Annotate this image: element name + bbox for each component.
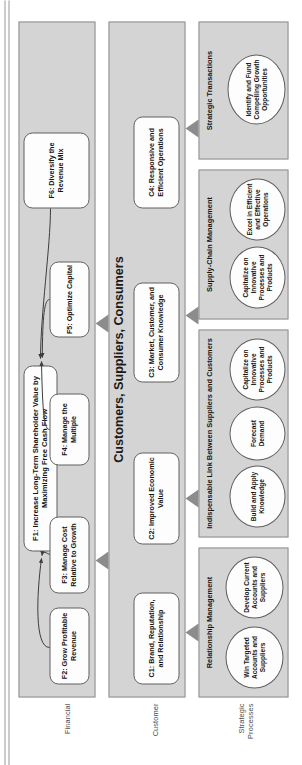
process-group-strategic-transactions: Strategic Transactions Identify and Fund…	[198, 21, 288, 159]
objective-f3[interactable]: F3: Manage Cost Relative to Growth	[49, 516, 89, 593]
flow-arrow-indispensable-link-to-customer	[185, 489, 198, 507]
objective-c1[interactable]: C1: Brand, Reputation, and Relationship	[133, 592, 179, 684]
row-label-customer: Customer	[150, 703, 159, 761]
process-group-indispensable-link: Indispensable Link Between Suppliers and…	[198, 329, 288, 537]
process-group-title: Supply-Chain Management	[204, 170, 213, 318]
process-item[interactable]: Build and Apply Knowledge	[229, 465, 285, 527]
process-group-title: Relationship Management	[204, 548, 213, 696]
process-item[interactable]: Capitalize on Innovative Processes and P…	[229, 246, 285, 308]
process-group-title: Strategic Transactions	[204, 22, 213, 158]
flow-arrow-customer-to-financial-left	[95, 551, 108, 569]
objective-c4[interactable]: C4: Responsive and Efficient Operations	[133, 116, 179, 208]
process-group-supply-chain-management: Supply-Chain Management Capitalize on In…	[198, 169, 288, 319]
band-title-customer: Customers, Suppliers, Consumers	[111, 21, 126, 697]
frame-line-outer	[4, 0, 5, 765]
process-item[interactable]: Capitalize on Innovative Processes and P…	[229, 338, 285, 400]
process-group-title: Indispensable Link Between Suppliers and…	[204, 330, 213, 536]
process-item[interactable]: Win Targeted Accounts and Suppliers	[225, 626, 283, 688]
objective-c3[interactable]: C3: Market, Customer, and Consumer Knowl…	[133, 282, 179, 382]
row-label-financial: Financial	[62, 703, 71, 761]
process-item[interactable]: Develop Current Accounts and Suppliers	[225, 556, 283, 618]
frame-line-inner	[8, 0, 9, 765]
process-group-relationship-management: Relationship Management Win Targeted Acc…	[198, 547, 288, 697]
diagram-canvas: Financial Customer Strategic Processes F…	[0, 0, 302, 765]
flow-arrow-relationship-to-customer	[185, 623, 198, 641]
objective-f6[interactable]: F6: Diversify the Revenue Mix	[23, 132, 89, 208]
objective-f5[interactable]: F5: Optimize Capital	[49, 261, 89, 337]
flow-arrow-strategic-transactions-to-customer	[185, 119, 198, 137]
process-item[interactable]: Forecast Demand	[229, 406, 285, 460]
row-label-column: Financial Customer Strategic Processes	[0, 701, 302, 765]
strategy-map: Financial Customer Strategic Processes F…	[0, 0, 302, 765]
objective-c2[interactable]: C2: Improved Economic Value	[133, 452, 179, 544]
flow-arrow-supply-chain-to-customer	[185, 306, 198, 324]
band-financial	[18, 21, 95, 697]
process-item[interactable]: Excel in Efficient and Effective Operati…	[229, 178, 285, 240]
process-item[interactable]: Identify and Fund Compelling Growth Oppo…	[227, 54, 285, 124]
flow-arrow-customer-to-financial-right	[95, 314, 108, 332]
objective-f4[interactable]: F4: Manage the Multiple	[49, 393, 89, 465]
row-label-strategic-processes: Strategic Processes	[236, 703, 254, 761]
objective-f2[interactable]: F2: Grow Profitable Revenue	[49, 607, 89, 684]
